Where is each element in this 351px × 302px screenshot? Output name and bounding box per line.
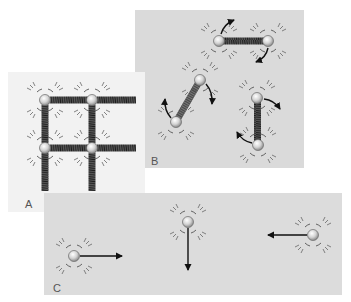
spring-bond xyxy=(97,145,136,152)
atom xyxy=(263,36,274,47)
panel-b-label: B xyxy=(151,155,158,167)
spring-bond xyxy=(50,145,88,152)
spring-bond xyxy=(89,105,96,143)
atom xyxy=(308,230,319,241)
atom xyxy=(69,251,80,262)
spring-bond xyxy=(42,153,49,191)
atom xyxy=(87,143,98,154)
panel-b-rotation: B xyxy=(135,10,304,168)
atom xyxy=(171,117,182,128)
atom xyxy=(87,95,98,106)
panel-a-vibration: A xyxy=(8,72,145,212)
panel-a-background xyxy=(8,72,145,212)
spring-bond xyxy=(97,97,136,104)
spring-bond xyxy=(222,38,266,45)
spring-bond xyxy=(254,101,261,142)
atom xyxy=(183,217,194,228)
molecular-motion-diagram: B A xyxy=(0,0,351,302)
panel-c-label: C xyxy=(53,282,61,294)
panel-b-background xyxy=(135,10,304,168)
spring-bond xyxy=(42,105,49,143)
panel-a-label: A xyxy=(25,198,33,210)
atom xyxy=(40,95,51,106)
atom xyxy=(252,93,263,104)
spring-bond xyxy=(50,97,88,104)
panel-c-background xyxy=(44,193,342,295)
atom xyxy=(40,143,51,154)
atom xyxy=(195,75,206,86)
atom xyxy=(253,140,264,151)
spring-bond xyxy=(89,153,96,191)
atom xyxy=(214,36,225,47)
panel-c-translation: C xyxy=(44,193,342,295)
